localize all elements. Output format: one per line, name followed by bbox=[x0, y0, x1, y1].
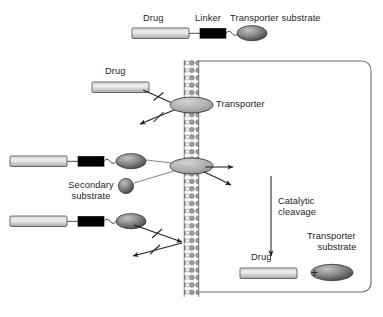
product-drug-shape bbox=[240, 268, 297, 279]
block-cross-diffusion-upper bbox=[152, 229, 162, 238]
block-cross-upper bbox=[154, 93, 164, 101]
legend-conjugate bbox=[132, 26, 267, 41]
legend-drug-label: Drug bbox=[143, 13, 164, 24]
catalytic-cleavage-label-line2: cleavage bbox=[278, 207, 316, 218]
conjugate-binding bbox=[10, 154, 176, 169]
legend-linker-shape bbox=[200, 28, 226, 38]
conjugate-blocked bbox=[10, 214, 146, 229]
conjugate-linker-shape bbox=[78, 156, 104, 166]
free-drug-label: Drug bbox=[105, 66, 126, 77]
conjugate-drug-shape bbox=[10, 156, 67, 167]
blocked-linker-shape bbox=[78, 216, 104, 226]
transporter-protein-active bbox=[170, 158, 213, 174]
diagram-graphics bbox=[0, 0, 383, 317]
secondary-substrate-leader bbox=[134, 170, 177, 183]
blocked-drug-shape bbox=[10, 216, 67, 227]
legend-squiggle-bond bbox=[226, 31, 238, 35]
product-substrate-label-line1: Transporter bbox=[307, 231, 356, 242]
figure-canvas: Drug Linker Transporter substrate Drug T… bbox=[0, 0, 383, 317]
secondary-substrate-label-line2: substrate bbox=[56, 191, 126, 202]
transporter-protein-upper bbox=[170, 97, 213, 113]
transporter-label: Transporter bbox=[216, 99, 265, 110]
legend-linker-label: Linker bbox=[195, 13, 221, 24]
free-drug-shape bbox=[92, 82, 149, 93]
cell-boundary bbox=[192, 61, 371, 292]
legend-substrate-shape bbox=[237, 26, 267, 41]
secondary-substrate-arrow bbox=[204, 172, 231, 185]
conjugate-substrate-shape bbox=[116, 154, 146, 169]
blocked-substrate-shape bbox=[116, 214, 146, 229]
block-cross-lower bbox=[154, 112, 164, 122]
legend-drug-shape bbox=[132, 28, 189, 39]
secondary-substrate-label-line1: Secondary bbox=[56, 180, 126, 191]
legend-substrate-label: Transporter substrate bbox=[230, 13, 321, 24]
catalytic-cleavage-label-line1: Catalytic bbox=[278, 196, 315, 207]
product-substrate-label-line2: substrate bbox=[307, 242, 367, 253]
product-drug-label: Drug bbox=[251, 252, 272, 263]
lipid-bilayer-membrane bbox=[184, 60, 199, 297]
blocked-diffusion-arrows bbox=[133, 225, 182, 256]
product-plus-sign: + bbox=[311, 268, 318, 279]
